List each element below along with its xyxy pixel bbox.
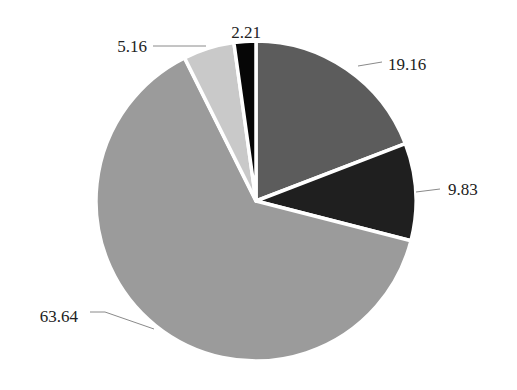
slice-label-19-16: 19.16 (388, 55, 426, 74)
leader-line (358, 62, 382, 66)
leader-line (416, 189, 440, 192)
pie-chart: 19.16 9.83 63.64 5.16 2.21 (0, 0, 517, 390)
slice-label-2-21: 2.21 (231, 23, 261, 42)
slice-label-9-83: 9.83 (448, 180, 478, 199)
slice-label-63-64: 63.64 (40, 307, 79, 326)
pie-slices (96, 41, 416, 361)
slice-label-5-16: 5.16 (117, 37, 147, 56)
